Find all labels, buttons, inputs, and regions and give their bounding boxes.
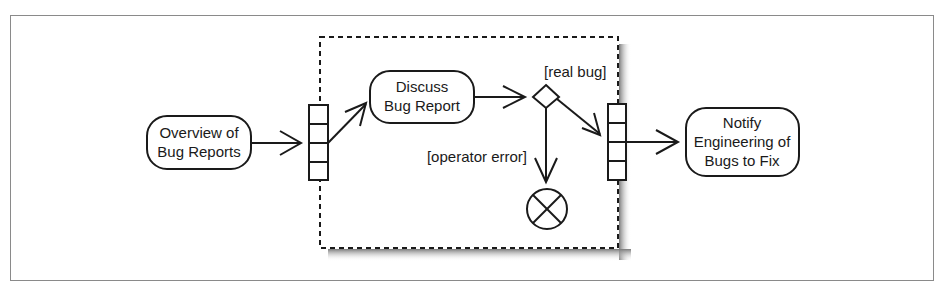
output-pin-group[interactable]: [608, 104, 626, 180]
overview-label-line2: Bug Reports: [157, 143, 240, 160]
action-notify-engineering[interactable]: Notify Engineering of Bugs to Fix: [686, 108, 799, 176]
guard-real-bug: [real bug]: [544, 63, 607, 80]
guard-operator-error: [operator error]: [427, 148, 527, 165]
decision-node[interactable]: [533, 85, 559, 108]
input-pin-group[interactable]: [309, 105, 328, 180]
action-overview-of-bug-reports[interactable]: Overview of Bug Reports: [147, 116, 251, 169]
flow-final-node[interactable]: [527, 189, 567, 229]
overview-label-line1: Overview of: [159, 124, 239, 141]
flow-arrow-operator-error: [535, 108, 557, 182]
flow-arrow-real-bug: [557, 99, 600, 135]
notify-label-line3: Bugs to Fix: [704, 152, 780, 169]
flow-arrow-overview-to-input-pins: [251, 131, 301, 155]
notify-label-line2: Engineering of: [694, 133, 792, 150]
activity-diagram: Overview of Bug Reports Discuss Bug Repo…: [0, 0, 943, 290]
action-discuss-bug-report[interactable]: Discuss Bug Report: [370, 71, 474, 123]
flow-arrow-pins-to-notify: [626, 130, 678, 154]
notify-label-line1: Notify: [723, 114, 762, 131]
discuss-label-line2: Bug Report: [384, 97, 461, 114]
discuss-label-line1: Discuss: [396, 78, 449, 95]
flow-arrow-discuss-to-decision: [474, 86, 525, 108]
flow-arrow-pins-to-discuss: [328, 103, 366, 143]
